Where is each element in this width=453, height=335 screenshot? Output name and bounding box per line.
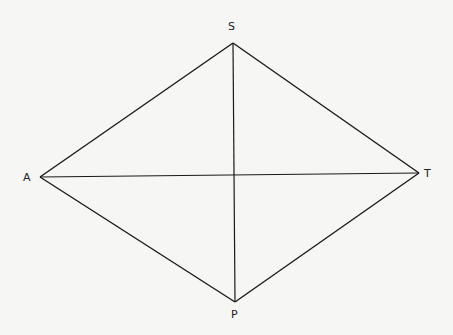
edge-s-a xyxy=(40,43,233,177)
edge-a-p xyxy=(40,177,235,302)
diagram-canvas: S A T P xyxy=(0,0,453,335)
diagonal-a-t xyxy=(40,173,419,177)
vertex-label-p: P xyxy=(231,308,238,321)
vertex-label-s: S xyxy=(228,20,235,33)
edge-t-p xyxy=(235,173,419,302)
rhombus-diagram: S A T P xyxy=(0,0,453,335)
vertex-label-t: T xyxy=(423,167,431,180)
diagonal-s-p xyxy=(233,43,235,302)
vertex-label-a: A xyxy=(23,171,31,184)
edge-s-t xyxy=(233,43,419,173)
